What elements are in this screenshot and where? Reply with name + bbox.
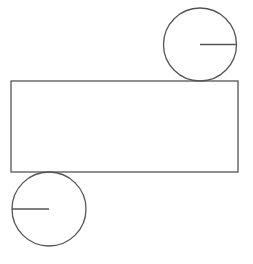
diagram-canvas	[0, 0, 253, 264]
cylinder-net-diagram	[0, 0, 253, 264]
net-rectangle	[11, 81, 238, 172]
